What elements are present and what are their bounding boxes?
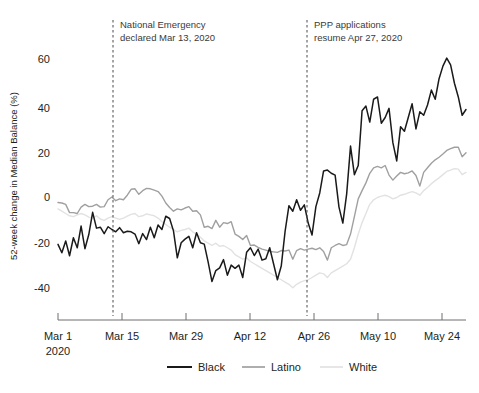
annotation-ppp-line1: PPP applications bbox=[314, 19, 386, 30]
y-tick-neg20: -20 bbox=[34, 237, 50, 249]
chart-legend: Black Latino White bbox=[167, 361, 377, 373]
x-axis-tick-marks bbox=[58, 313, 442, 320]
y-axis-tick-labels: 60 40 20 0 -20 -40 bbox=[34, 53, 50, 294]
annotation-ne-line2: declared Mar 13, 2020 bbox=[120, 32, 215, 43]
legend-label-latino[interactable]: Latino bbox=[271, 361, 301, 373]
x-axis-tick-labels: Mar 1 2020 Mar 15 Mar 29 Apr 12 Apr 26 M… bbox=[44, 330, 460, 357]
x-tick-apr-26: Apr 26 bbox=[298, 330, 330, 342]
y-tick-0: 0 bbox=[44, 191, 50, 203]
x-tick-year: 2020 bbox=[46, 345, 70, 357]
series-group bbox=[58, 58, 466, 288]
annotation-ne-line1: National Emergency bbox=[120, 19, 206, 30]
x-tick-apr-12: Apr 12 bbox=[234, 330, 266, 342]
legend-label-black[interactable]: Black bbox=[198, 361, 225, 373]
series-line-black bbox=[58, 58, 466, 281]
y-tick-20: 20 bbox=[38, 147, 50, 159]
y-axis-title: 52-week change in Median Balance (%) bbox=[8, 92, 19, 260]
series-line-latino bbox=[58, 147, 466, 260]
annotation-ppp-line2: resume Apr 27, 2020 bbox=[314, 32, 402, 43]
chart-figure: 52-week change in Median Balance (%) 60 … bbox=[0, 0, 479, 393]
x-tick-mar-29: Mar 29 bbox=[169, 330, 203, 342]
x-tick-may-10: May 10 bbox=[360, 330, 396, 342]
y-tick-neg40: -40 bbox=[34, 282, 50, 294]
y-tick-40: 40 bbox=[38, 102, 50, 114]
x-tick-mar-15: Mar 15 bbox=[105, 330, 139, 342]
legend-label-white[interactable]: White bbox=[349, 361, 377, 373]
annotation-national-emergency: National Emergency declared Mar 13, 2020 bbox=[120, 19, 215, 43]
line-chart-canvas: 52-week change in Median Balance (%) 60 … bbox=[0, 0, 479, 393]
y-tick-60: 60 bbox=[38, 53, 50, 65]
annotation-ppp-applications: PPP applications resume Apr 27, 2020 bbox=[314, 19, 402, 43]
x-tick-may-24: May 24 bbox=[424, 330, 460, 342]
x-tick-mar-1: Mar 1 bbox=[44, 330, 72, 342]
